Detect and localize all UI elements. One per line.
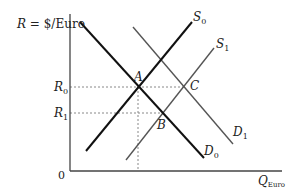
x-axis-label: QEuro bbox=[258, 174, 285, 189]
point-b-label: B bbox=[156, 118, 166, 132]
s0-curve bbox=[86, 22, 192, 151]
d0-curve bbox=[80, 22, 204, 158]
s1-label: S1 bbox=[216, 37, 229, 53]
exchange-rate-diagram: R = $/Euro R0 R1 0 QEuro S0 S1 D0 D1 A B… bbox=[0, 0, 298, 193]
origin-label: 0 bbox=[58, 169, 65, 182]
d1-label: D1 bbox=[232, 125, 248, 141]
d0-label: D0 bbox=[203, 144, 219, 160]
r0-label: R0 bbox=[53, 80, 68, 96]
r1-label: R1 bbox=[53, 106, 68, 122]
point-c-label: C bbox=[190, 79, 199, 93]
s1-curve bbox=[126, 48, 214, 160]
point-a-label: A bbox=[133, 70, 143, 84]
s0-label: S0 bbox=[193, 10, 206, 26]
y-axis-label: R = $/Euro bbox=[16, 17, 85, 31]
